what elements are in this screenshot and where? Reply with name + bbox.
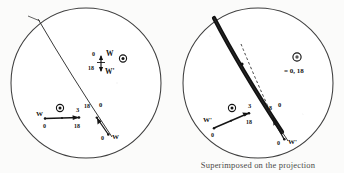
left-vector-end-dot	[78, 116, 81, 119]
right-second-vector-end-dot	[272, 117, 274, 119]
right-lower-label-wprime: W'	[288, 138, 297, 146]
left-projection-svg: W W' 0 18 W 0 18 3 18 0 0 W	[0, 0, 172, 173]
right-vector-label-zero: 0	[211, 132, 214, 138]
right-primitive-circle	[183, 8, 333, 158]
right-legend-label: = 0, 18	[284, 67, 304, 75]
left-second-vector-start-dot	[107, 133, 110, 136]
left-vector-label-zero: 0	[43, 123, 46, 129]
right-panel-caption: Superimposed on the projection	[172, 160, 344, 170]
right-band-point-dot	[240, 62, 243, 65]
left-lower-label-zero: 0	[101, 135, 104, 141]
right-trace-label-zero: 0	[278, 101, 281, 108]
left-vector-label-w: W	[36, 110, 43, 118]
right-projection-svg: W' 0 18 3 18 0 0 W' = 0, 18	[172, 0, 344, 173]
left-projection-panel: W W' 0 18 W 0 18 3 18 0 0 W	[0, 0, 172, 173]
right-lower-label-zero: 0	[277, 140, 280, 146]
left-vector-label-eighteen: 18	[74, 123, 80, 129]
right-vector-label-wprime: W'	[203, 116, 212, 124]
left-cluster-label-eighteen: 18	[88, 65, 94, 71]
left-vector-start-dot	[44, 117, 47, 120]
right-vector-mid-dot	[230, 120, 232, 122]
right-projection-panel: W' 0 18 3 18 0 0 W' = 0, 18 Superimposed…	[172, 0, 344, 173]
right-second-vector-start-dot	[283, 138, 286, 141]
left-vector-mid-dot	[61, 117, 63, 119]
left-cluster-label-w: W	[106, 49, 114, 58]
left-cluster-label-wprime: W'	[105, 67, 115, 76]
left-trace-label-eighteen: 18	[84, 103, 90, 109]
right-vector-start-dot	[213, 127, 216, 130]
left-trace-top-tick	[28, 16, 40, 21]
left-trace-label-zero: 0	[99, 101, 102, 108]
left-cluster-label-zero: 0	[92, 51, 95, 57]
right-vector-label-eighteen: 18	[246, 119, 252, 125]
left-lower-label-w: W	[112, 133, 119, 141]
left-second-vector-end-dot	[96, 116, 98, 118]
right-vector-end-dot	[248, 112, 251, 115]
figure-root: W W' 0 18 W 0 18 3 18 0 0 W	[0, 0, 344, 173]
right-trace-label-eighteen: 18	[266, 105, 272, 111]
left-primitive-circle	[11, 8, 161, 158]
